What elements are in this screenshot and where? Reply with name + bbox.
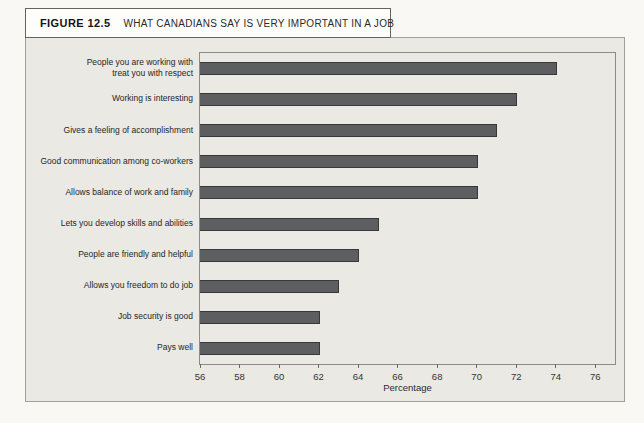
x-axis-title: Percentage bbox=[199, 382, 616, 393]
bar-label: Working is interesting bbox=[26, 83, 193, 114]
x-axis-tick-label: 70 bbox=[462, 371, 492, 382]
bar bbox=[200, 280, 339, 293]
bar bbox=[200, 311, 320, 324]
x-axis-tick-mark bbox=[318, 364, 319, 368]
x-axis-tick-label: 74 bbox=[541, 371, 571, 382]
figure-page: FIGURE 12.5 WHAT CANADIANS SAY IS VERY I… bbox=[0, 0, 644, 423]
x-axis-tick-mark bbox=[595, 364, 596, 368]
x-axis-tick-mark bbox=[555, 364, 556, 368]
bar-label: Good communication among co-workers bbox=[26, 145, 193, 176]
bar bbox=[200, 155, 478, 168]
x-axis-tick-mark bbox=[239, 364, 240, 368]
bar-label: Allows balance of work and family bbox=[26, 176, 193, 207]
x-axis-tick-label: 76 bbox=[580, 371, 610, 382]
x-axis-tick-label: 66 bbox=[383, 371, 413, 382]
x-axis-tick-label: 60 bbox=[264, 371, 294, 382]
figure-label-box: FIGURE 12.5 WHAT CANADIANS SAY IS VERY I… bbox=[25, 8, 391, 38]
bar bbox=[200, 186, 478, 199]
x-axis-tick-label: 56 bbox=[185, 371, 215, 382]
bar-label: People you are working withtreat you wit… bbox=[26, 52, 193, 83]
x-axis-tick-mark bbox=[358, 364, 359, 368]
bar bbox=[200, 124, 497, 137]
bar bbox=[200, 249, 359, 262]
bar-label: Gives a feeling of accomplishment bbox=[26, 114, 193, 145]
bar bbox=[200, 342, 320, 355]
bar-label: Job security is good bbox=[26, 301, 193, 332]
bar bbox=[200, 93, 517, 106]
x-axis-tick-mark bbox=[516, 364, 517, 368]
x-axis-tick-mark bbox=[437, 364, 438, 368]
x-axis-tick-mark bbox=[476, 364, 477, 368]
chart-panel: 5658606264666870727476 Percentage People… bbox=[25, 37, 625, 402]
bar-label: Allows you freedom to do job bbox=[26, 270, 193, 301]
bar bbox=[200, 62, 557, 75]
bar-label: Lets you develop skills and abilities bbox=[26, 208, 193, 239]
x-axis-tick-label: 68 bbox=[422, 371, 452, 382]
x-axis-tick-mark bbox=[200, 364, 201, 368]
x-axis-tick-label: 62 bbox=[304, 371, 334, 382]
bar bbox=[200, 218, 379, 231]
figure-number-label: FIGURE 12.5 bbox=[40, 17, 110, 29]
x-axis-tick-label: 58 bbox=[225, 371, 255, 382]
x-axis-tick-mark bbox=[279, 364, 280, 368]
plot-area: 5658606264666870727476 bbox=[199, 52, 616, 365]
x-axis-tick-mark bbox=[397, 364, 398, 368]
x-axis-tick-label: 64 bbox=[343, 371, 373, 382]
bar-label: People are friendly and helpful bbox=[26, 239, 193, 270]
bar-label: Pays well bbox=[26, 332, 193, 363]
figure-title: WHAT CANADIANS SAY IS VERY IMPORTANT IN … bbox=[123, 18, 394, 29]
x-axis-tick-label: 72 bbox=[501, 371, 531, 382]
